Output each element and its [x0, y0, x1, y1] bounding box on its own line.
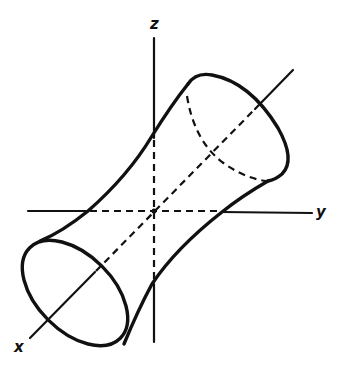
- y-axis-right: [222, 212, 312, 213]
- origin-point: [152, 209, 157, 214]
- x-axis-hidden: [96, 110, 254, 271]
- left-silhouette: [40, 84, 188, 241]
- right-silhouette: [124, 181, 268, 344]
- y-axis-label: y: [316, 205, 326, 220]
- hyperboloid-figure: [0, 0, 340, 370]
- x-axis-label: x: [14, 340, 24, 355]
- z-axis-label: z: [150, 17, 159, 32]
- x-axis-lower: [30, 272, 95, 338]
- diagram-canvas: z y x: [0, 0, 340, 370]
